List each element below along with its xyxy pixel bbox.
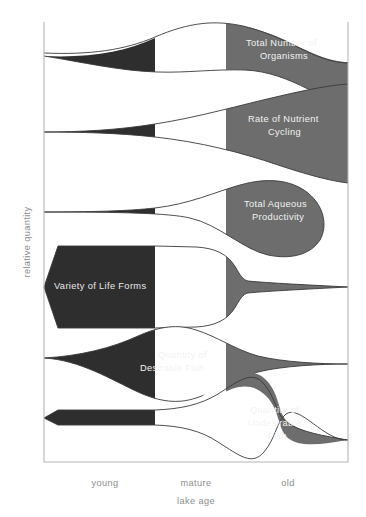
x-tick-label-mature: mature xyxy=(181,478,212,488)
band2-label-line2: Cycling xyxy=(268,127,301,137)
band1-label-line2: Organisms xyxy=(260,51,308,61)
band4-label-line1: Variety of Life Forms xyxy=(54,281,146,291)
band2-label-line1: Rate of Nutrient xyxy=(248,114,319,124)
band6-label-line3: Fish xyxy=(268,431,287,441)
x-tick-label-old: old xyxy=(281,478,294,488)
band5-label-line1: Quantity of xyxy=(158,350,207,360)
band6-label-line2: Undesirable xyxy=(248,418,301,428)
band3-label-line2: Productivity xyxy=(252,212,304,222)
band1-label-line1: Total Number of xyxy=(246,38,317,48)
x-axis-title: lake age xyxy=(177,496,215,506)
band3-label-line1: Total Aqueous xyxy=(244,199,307,209)
x-tick-label-young: young xyxy=(91,478,118,488)
band6-label-line1: Quantity of xyxy=(250,405,299,415)
lake-succession-figure: Total Number of Organisms Rate of Nutrie… xyxy=(0,0,366,517)
band5-label-line2: Desirable Fish xyxy=(140,363,204,373)
y-axis-title: relative quantity xyxy=(22,206,32,277)
band4-segment-mature xyxy=(155,240,226,335)
